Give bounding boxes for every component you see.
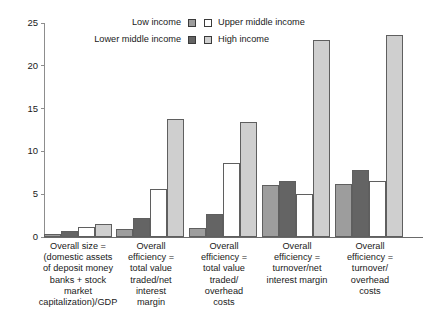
y-axis-tick-label: 5 (33, 188, 38, 199)
bar (369, 181, 386, 237)
bar (95, 224, 112, 237)
bar (352, 170, 369, 237)
x-axis-line (44, 237, 423, 238)
plot-area (44, 23, 423, 237)
bar (335, 184, 352, 237)
bar (116, 229, 133, 237)
bar (279, 181, 296, 237)
bar (44, 234, 61, 237)
bar-chart: Low income Upper middle income Lower mid… (0, 0, 431, 316)
bar (296, 194, 313, 237)
bar-group (189, 23, 257, 237)
x-axis-category-label: Overall efficiency = total value traded/… (188, 241, 260, 308)
bar (133, 218, 150, 237)
bar (61, 231, 78, 237)
bar (386, 35, 403, 237)
y-axis-tick-label: 10 (27, 145, 38, 156)
bar (240, 122, 257, 237)
bar (189, 228, 206, 237)
bar (206, 214, 223, 237)
bar (78, 227, 95, 237)
bar (167, 119, 184, 237)
bar-group (262, 23, 330, 237)
bar-group (335, 23, 403, 237)
x-axis-labels: Overall size = (domestic assets of depos… (0, 241, 431, 316)
x-axis-category-label: Overall efficiency = turnover/ overhead … (334, 241, 406, 297)
bar (313, 40, 330, 237)
y-axis-tick-label: 20 (27, 60, 38, 71)
x-axis-category-label: Overall efficiency = total value traded/… (115, 241, 187, 308)
x-axis-category-label: Overall size = (domestic assets of depos… (32, 241, 124, 308)
bar (223, 163, 240, 237)
bar (262, 185, 279, 237)
x-axis-category-label: Overall efficiency = turnover/net intere… (254, 241, 340, 286)
y-axis-tick-label: 15 (27, 103, 38, 114)
bar-group (44, 23, 112, 237)
bar-group (116, 23, 184, 237)
y-axis-tick-label: 25 (27, 17, 38, 28)
bar (150, 189, 167, 237)
